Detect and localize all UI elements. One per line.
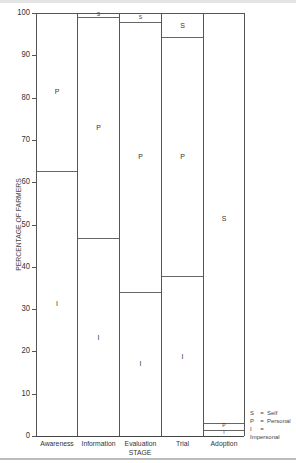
x-tick-label-information: Information — [80, 439, 117, 448]
legend: S=Self P=Personal I=Impersonal — [250, 409, 296, 441]
y-tick-label: 60 — [5, 176, 31, 186]
segment-boundary — [120, 292, 161, 293]
bar-trial: IPS — [161, 13, 204, 436]
y-tick-label: 40 — [5, 261, 31, 271]
segment-boundary — [120, 22, 161, 23]
segment-label-impersonal: I — [162, 353, 203, 360]
segment-label-personal: P — [78, 124, 119, 131]
x-tick-label-evaluation: Evaluation — [122, 439, 159, 448]
segment-label-impersonal: I — [37, 300, 77, 307]
x-axis-title: STAGE — [106, 448, 174, 457]
segment-boundary — [78, 238, 119, 239]
bar-information: IPS — [77, 13, 120, 436]
segment-label-self: S — [78, 11, 119, 17]
segment-label-personal: P — [162, 153, 203, 160]
segment-label-personal: P — [120, 153, 161, 160]
y-tick-label: 80 — [5, 92, 31, 102]
x-axis-line — [36, 436, 244, 437]
bar-awareness: IP — [36, 13, 78, 436]
segment-boundary — [78, 17, 119, 18]
y-tick-label: 90 — [5, 49, 31, 59]
segment-boundary — [162, 37, 203, 38]
y-tick-label: 100 — [5, 7, 31, 17]
bottom-border — [0, 458, 296, 460]
segment-label-personal: P — [204, 422, 244, 428]
y-tick-label: 50 — [5, 219, 31, 229]
y-tick-label: 20 — [5, 345, 31, 355]
segment-label-impersonal: I — [204, 429, 244, 435]
x-tick-label-trial: Trial — [164, 439, 201, 448]
segment-boundary — [162, 276, 203, 277]
y-tick-label: 30 — [5, 303, 31, 313]
segment-label-impersonal: I — [120, 360, 161, 367]
segment-label-personal: P — [37, 88, 77, 95]
x-tick-label-adoption: Adoption — [206, 439, 242, 448]
segment-label-self: S — [162, 22, 203, 29]
legend-item-personal: P=Personal — [250, 417, 296, 425]
legend-item-impersonal: I=Impersonal — [250, 425, 296, 441]
segment-label-self: S — [120, 14, 161, 20]
y-tick-label: 10 — [5, 388, 31, 398]
segment-label-impersonal: I — [78, 334, 119, 341]
y-tick-label: 0 — [5, 430, 31, 440]
y-tick-label: 70 — [5, 134, 31, 144]
top-border — [0, 0, 296, 3]
x-tick-label-awareness: Awareness — [39, 439, 75, 448]
bar-evaluation: IPS — [119, 13, 162, 436]
segment-label-self: S — [204, 215, 244, 222]
segment-boundary — [37, 171, 77, 172]
bar-adoption: IPS — [203, 13, 245, 436]
legend-item-self: S=Self — [250, 409, 296, 417]
